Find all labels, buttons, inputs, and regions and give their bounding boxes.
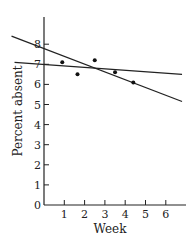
y-tick-label: 0 xyxy=(34,199,41,212)
x-tick-label: 6 xyxy=(162,208,169,221)
y-tick-label: 3 xyxy=(34,139,41,152)
chart: 123456012345678 Week Percent absent xyxy=(0,0,196,243)
y-tick-label: 5 xyxy=(34,99,41,112)
y-tick-label: 7 xyxy=(34,58,41,71)
data-point xyxy=(93,58,97,62)
data-point xyxy=(75,72,79,76)
x-tick-label: 2 xyxy=(81,208,88,221)
x-tick-label: 3 xyxy=(101,208,108,221)
y-tick-label: 1 xyxy=(34,179,41,192)
x-tick-label: 1 xyxy=(61,208,68,221)
x-tick-label: 5 xyxy=(142,208,149,221)
x-axis-label: Week xyxy=(94,222,128,236)
y-tick-label: 4 xyxy=(34,119,41,132)
axes xyxy=(44,17,186,205)
y-axis-label: Percent absent xyxy=(11,65,25,156)
y-tick-label: 2 xyxy=(34,159,41,172)
y-tick-label: 6 xyxy=(34,78,41,91)
data-point xyxy=(131,80,135,84)
x-tick-label: 4 xyxy=(122,208,129,221)
data-point xyxy=(60,60,64,64)
data-point xyxy=(113,70,117,74)
data-points xyxy=(60,58,135,84)
